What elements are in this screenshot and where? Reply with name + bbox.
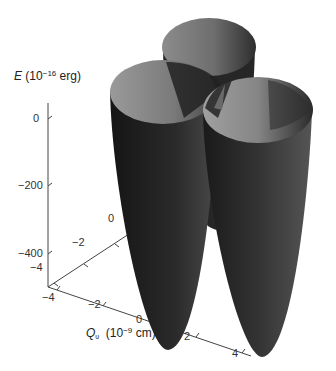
x-tick-2: 2 [184, 331, 190, 342]
right-front-well [203, 77, 313, 357]
z-axis-title: E (10−16 erg) [14, 70, 81, 82]
z-tick-0: 0 [33, 113, 39, 124]
y-axis-line [48, 232, 132, 287]
y-tick-neg2: −2 [72, 237, 85, 248]
y-tick-0: 0 [108, 213, 114, 224]
z-tick-neg400: −400 [18, 248, 43, 259]
x-tick-4: 4 [232, 348, 238, 359]
x-tick-neg4: −4 [42, 292, 55, 303]
x-axis-title: Qυ (10−9 cm) [86, 327, 156, 340]
x-tick-0: 0 [136, 314, 142, 325]
z-tick-neg200: −200 [18, 180, 43, 191]
surface-plot [0, 0, 336, 371]
y-tick-neg4: −4 [30, 262, 43, 273]
x-tick-neg2: −2 [88, 299, 101, 310]
